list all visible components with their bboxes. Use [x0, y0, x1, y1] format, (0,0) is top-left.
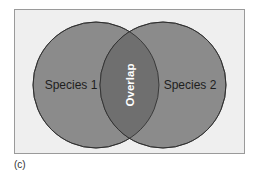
species-2-label: Species 2 — [164, 78, 217, 92]
overlap-label: Overlap — [124, 64, 136, 107]
species-1-label: Species 1 — [45, 78, 98, 92]
venn-diagram: Species 1 Species 2 Overlap — [0, 0, 259, 173]
figure-caption: (c) — [14, 159, 26, 170]
